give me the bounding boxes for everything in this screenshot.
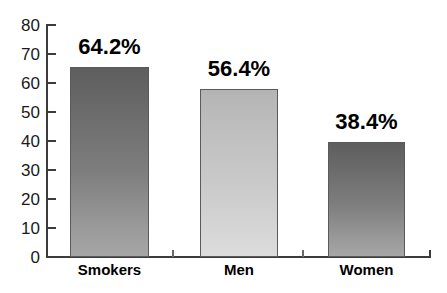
bar-smokers [70, 67, 149, 257]
y-axis-label-30: 30 [4, 162, 40, 179]
x-axis-tick-1 [172, 250, 174, 257]
y-axis-label-0: 0 [4, 249, 40, 266]
y-axis-tick-10 [47, 227, 56, 229]
y-axis-tick-60 [47, 82, 56, 84]
x-axis-end-tick [429, 250, 431, 257]
value-label-men: 56.4% [199, 58, 279, 80]
y-axis-label-50: 50 [4, 104, 40, 121]
y-axis-tick-50 [47, 111, 56, 113]
y-axis-label-40: 40 [4, 133, 40, 150]
bar-women [328, 142, 405, 257]
y-axis-label-60: 60 [4, 75, 40, 92]
y-axis-label-10: 10 [4, 220, 40, 237]
y-axis-tick-20 [47, 198, 56, 200]
category-label-women: Women [327, 262, 406, 278]
y-axis-tick-80 [47, 24, 56, 26]
category-label-smokers: Smokers [70, 262, 149, 278]
y-axis-label-80: 80 [4, 17, 40, 34]
y-axis-tick-30 [47, 169, 56, 171]
category-label-men: Men [199, 262, 279, 278]
y-axis-label-70: 70 [4, 46, 40, 63]
bar-chart: 80 70 60 50 40 30 20 10 0 64.2% 56.4% 38… [0, 0, 447, 293]
bar-men [200, 89, 278, 257]
y-axis-tick-70 [47, 53, 56, 55]
x-axis-tick-2 [302, 250, 304, 257]
y-axis-label-20: 20 [4, 191, 40, 208]
y-axis-tick-40 [47, 140, 56, 142]
value-label-smokers: 64.2% [70, 36, 149, 58]
value-label-women: 38.4% [327, 111, 406, 133]
plot-area: 80 70 60 50 40 30 20 10 0 64.2% 56.4% 38… [0, 0, 447, 293]
